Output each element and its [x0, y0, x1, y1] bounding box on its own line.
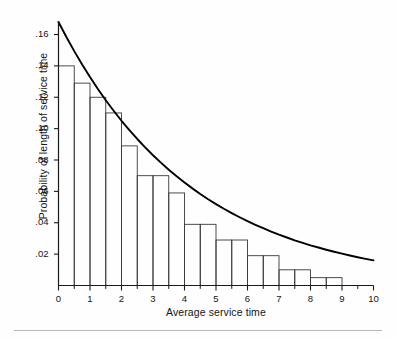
x-axis-tick-label: 2 — [112, 293, 132, 304]
x-axis-tick-label: 10 — [364, 293, 384, 304]
histogram-bar — [295, 270, 311, 286]
histogram-bar — [311, 278, 327, 286]
histogram-bar — [232, 240, 248, 285]
x-axis-tick-label: 1 — [80, 293, 100, 304]
x-axis-tick-label: 8 — [301, 293, 321, 304]
histogram-bar — [122, 146, 138, 286]
y-axis-title: Probability of length of service time — [37, 11, 49, 261]
histogram-bar — [279, 270, 295, 286]
bars-group — [59, 66, 343, 286]
histogram-bar — [106, 113, 122, 286]
x-axis-tick-label: 9 — [332, 293, 352, 304]
page-bottom-rule — [14, 330, 382, 331]
histogram-bar — [200, 224, 216, 285]
x-axis-title: Average service time — [58, 306, 374, 318]
histogram-bar — [263, 256, 279, 286]
histogram-bar — [153, 176, 169, 286]
x-axis-tick-label: 6 — [238, 293, 258, 304]
histogram-bar — [169, 193, 185, 286]
histogram-bar — [216, 240, 232, 285]
x-axis-tick-label: 3 — [143, 293, 163, 304]
histogram-bar — [326, 278, 342, 286]
x-axis-tick-label: 7 — [269, 293, 289, 304]
histogram-bar — [59, 66, 75, 286]
x-axis-tick-label: 0 — [49, 293, 69, 304]
x-axis-tick-label: 4 — [175, 293, 195, 304]
chart-canvas — [0, 0, 396, 338]
histogram-bar — [137, 176, 153, 286]
figure-container: .02.04.06.08.10.12.14.16 012345678910 Pr… — [0, 0, 396, 338]
histogram-bar — [74, 83, 90, 285]
histogram-bar — [185, 224, 201, 285]
histogram-bar — [90, 97, 106, 285]
histogram-bar — [248, 256, 264, 286]
x-axis-tick-label: 5 — [206, 293, 226, 304]
